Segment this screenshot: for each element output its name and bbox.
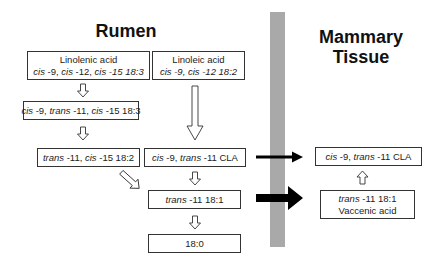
hollow-down-arrow-icon [190, 172, 201, 185]
long-hollow-down-arrow-icon [187, 86, 203, 140]
diagonal-hollow-arrow-icon [117, 168, 143, 193]
hollow-down-arrow-icon [190, 216, 201, 229]
vaccenic-transfer-arrow-icon [256, 186, 303, 210]
hollow-down-arrow-icon [78, 127, 89, 140]
cla-transfer-arrow-icon [256, 152, 303, 163]
hollow-up-arrow-icon [357, 171, 368, 184]
arrows-layer [0, 0, 440, 264]
hollow-down-arrow-icon [78, 84, 89, 97]
